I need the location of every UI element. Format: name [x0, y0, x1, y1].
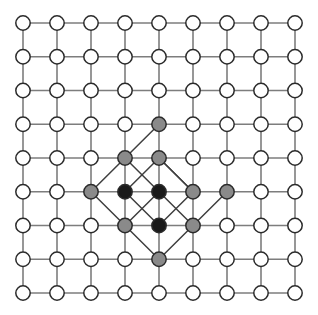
lattice-node-white — [288, 252, 302, 266]
lattice-node-white — [118, 83, 132, 97]
lattice-node-white — [220, 83, 234, 97]
lattice-node-white — [84, 286, 98, 300]
lattice-node-white — [84, 151, 98, 165]
lattice-node-white — [254, 286, 268, 300]
lattice-node-white — [220, 16, 234, 30]
lattice-node-white — [16, 151, 30, 165]
lattice-node-white — [254, 218, 268, 232]
lattice-node-white — [50, 117, 64, 131]
lattice-node-white — [288, 185, 302, 199]
lattice-node-white — [186, 50, 200, 64]
lattice-node-white — [186, 16, 200, 30]
lattice-node-white — [288, 83, 302, 97]
lattice-node-white — [220, 286, 234, 300]
lattice-node-white — [220, 252, 234, 266]
lattice-node-white — [288, 117, 302, 131]
lattice-node-white — [288, 50, 302, 64]
lattice-node-white — [50, 185, 64, 199]
lattice-node-white — [16, 286, 30, 300]
lattice-node-white — [16, 185, 30, 199]
lattice-node-white — [254, 252, 268, 266]
lattice-node-white — [152, 16, 166, 30]
lattice-node-white — [152, 286, 166, 300]
lattice-node-black — [152, 185, 166, 199]
lattice-node-white — [50, 50, 64, 64]
node-layer — [16, 16, 302, 300]
lattice-node-white — [254, 16, 268, 30]
lattice-node-white — [16, 83, 30, 97]
lattice-node-gray — [220, 185, 234, 199]
lattice-node-white — [118, 252, 132, 266]
lattice-node-white — [220, 151, 234, 165]
lattice-node-white — [254, 185, 268, 199]
lattice-node-gray — [152, 117, 166, 131]
lattice-node-white — [84, 117, 98, 131]
lattice-node-white — [254, 50, 268, 64]
lattice-node-white — [186, 83, 200, 97]
lattice-node-white — [220, 117, 234, 131]
lattice-figure — [0, 0, 318, 315]
lattice-node-white — [254, 83, 268, 97]
lattice-node-gray — [118, 218, 132, 232]
lattice-node-white — [186, 117, 200, 131]
lattice-node-white — [186, 252, 200, 266]
lattice-node-white — [186, 286, 200, 300]
lattice-node-white — [50, 286, 64, 300]
lattice-node-gray — [84, 185, 98, 199]
lattice-node-white — [254, 151, 268, 165]
lattice-node-black — [152, 218, 166, 232]
lattice-node-gray — [186, 185, 200, 199]
lattice-node-white — [50, 252, 64, 266]
lattice-node-white — [288, 151, 302, 165]
lattice-node-white — [84, 83, 98, 97]
lattice-canvas — [0, 0, 318, 315]
lattice-node-white — [50, 83, 64, 97]
lattice-node-white — [288, 218, 302, 232]
lattice-node-white — [118, 117, 132, 131]
lattice-node-white — [16, 218, 30, 232]
lattice-node-gray — [152, 252, 166, 266]
lattice-node-white — [220, 218, 234, 232]
lattice-node-white — [16, 50, 30, 64]
lattice-node-white — [186, 151, 200, 165]
lattice-node-white — [16, 16, 30, 30]
lattice-node-gray — [118, 151, 132, 165]
lattice-node-white — [118, 50, 132, 64]
lattice-node-white — [16, 117, 30, 131]
lattice-node-white — [16, 252, 30, 266]
lattice-node-white — [152, 50, 166, 64]
lattice-node-black — [118, 185, 132, 199]
lattice-node-white — [50, 16, 64, 30]
lattice-node-white — [84, 252, 98, 266]
lattice-node-gray — [186, 218, 200, 232]
lattice-node-white — [84, 50, 98, 64]
lattice-node-white — [118, 16, 132, 30]
lattice-node-white — [220, 50, 234, 64]
lattice-node-white — [288, 16, 302, 30]
lattice-node-white — [254, 117, 268, 131]
lattice-node-white — [152, 83, 166, 97]
lattice-node-white — [84, 16, 98, 30]
lattice-node-white — [84, 218, 98, 232]
lattice-node-white — [288, 286, 302, 300]
lattice-node-white — [50, 151, 64, 165]
lattice-node-gray — [152, 151, 166, 165]
lattice-node-white — [118, 286, 132, 300]
lattice-node-white — [50, 218, 64, 232]
